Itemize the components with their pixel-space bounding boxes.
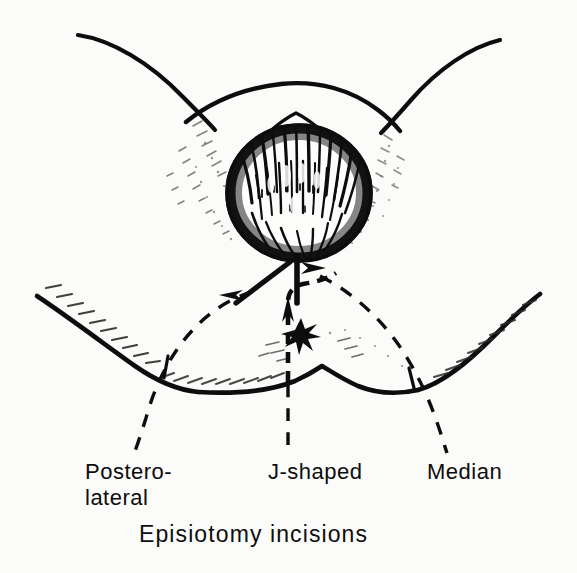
label-postero-lateral: Postero-lateral: [85, 459, 172, 511]
figure-caption: Episiotomy incisions: [139, 521, 368, 548]
label-j-shaped: J-shaped: [268, 459, 363, 485]
label-median: Median: [427, 459, 502, 485]
label-postero-lateral-line1: Postero-: [85, 459, 172, 484]
label-postero-lateral-line2: lateral: [85, 485, 148, 510]
fetal-head: [227, 125, 371, 261]
episiotomy-figure: Postero-lateral J-shaped Median Episioto…: [0, 0, 577, 573]
